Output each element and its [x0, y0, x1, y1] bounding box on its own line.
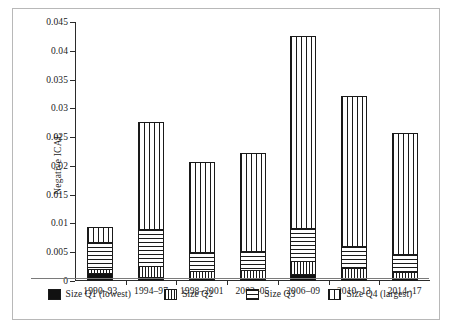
- stacked-bar[interactable]: [341, 96, 367, 281]
- y-axis-tick-label: 0.01: [51, 218, 68, 228]
- bar-segment[interactable]: [88, 243, 112, 270]
- bar-segment[interactable]: [190, 253, 214, 272]
- bar-segment[interactable]: [342, 97, 366, 247]
- legend-item[interactable]: Size Q3: [246, 289, 295, 300]
- figure-panel: Negative ICAE 00.0050.010.0150.020.0250.…: [12, 8, 440, 320]
- chart-legend: Size Q1 (lowest)Size Q2Size Q3Size Q4 (l…: [31, 278, 429, 305]
- bar-group[interactable]: 1998–2001: [189, 22, 215, 281]
- y-axis-line: [75, 22, 76, 281]
- y-axis-tick: [70, 80, 75, 81]
- y-axis-tick-label: 0.035: [46, 75, 68, 85]
- y-axis-tick: [70, 252, 75, 253]
- legend-item[interactable]: Size Q1 (lowest): [48, 289, 131, 300]
- legend-swatch-icon: [328, 289, 341, 300]
- bar-segment[interactable]: [291, 37, 315, 228]
- bar-segment[interactable]: [241, 252, 265, 271]
- y-axis-tick-label: 0.03: [51, 103, 68, 113]
- bar-segment[interactable]: [139, 230, 163, 267]
- bar-segment[interactable]: [241, 154, 265, 252]
- bar-group[interactable]: 2010–13: [341, 22, 367, 281]
- stacked-bar[interactable]: [189, 162, 215, 281]
- y-axis-tick: [70, 108, 75, 109]
- legend-swatch-icon: [164, 289, 177, 300]
- stacked-bar[interactable]: [87, 227, 113, 281]
- bar-segment[interactable]: [190, 163, 214, 253]
- stacked-bar[interactable]: [138, 122, 164, 281]
- y-axis-tick-label: 0.015: [46, 190, 68, 200]
- plot-area: 00.0050.010.0150.020.0250.030.0350.040.0…: [75, 22, 430, 281]
- bar-segment[interactable]: [291, 229, 315, 263]
- stacked-bar[interactable]: [392, 133, 418, 281]
- bar-segment[interactable]: [139, 267, 163, 278]
- y-axis-tick: [70, 137, 75, 138]
- legend-item-label: Size Q3: [264, 289, 295, 299]
- legend-item-label: Size Q4 (largest): [346, 289, 412, 299]
- bar-group[interactable]: 2002–05: [240, 22, 266, 281]
- bar-group[interactable]: 1994–97: [138, 22, 164, 281]
- bar-group[interactable]: 1990–93: [87, 22, 113, 281]
- bar-segment[interactable]: [291, 262, 315, 275]
- bar-segment[interactable]: [393, 255, 417, 273]
- stacked-bar[interactable]: [290, 36, 316, 281]
- bar-segment[interactable]: [342, 247, 366, 269]
- bar-group[interactable]: 2014–17: [392, 22, 418, 281]
- y-axis-tick: [70, 195, 75, 196]
- y-axis-tick-label: 0.045: [46, 17, 68, 27]
- y-axis-tick: [70, 223, 75, 224]
- y-axis-tick-label: 0.025: [46, 132, 68, 142]
- legend-swatch-icon: [48, 289, 61, 300]
- bar-segment[interactable]: [393, 134, 417, 256]
- y-axis-tick: [70, 51, 75, 52]
- y-axis-tick-label: 0.04: [51, 46, 68, 56]
- bar-segment[interactable]: [88, 228, 112, 242]
- y-axis-tick-label: 0.005: [46, 247, 68, 257]
- y-axis-tick-label: 0.02: [51, 161, 68, 171]
- legend-item[interactable]: Size Q2: [164, 289, 213, 300]
- bar-group[interactable]: 2006–09: [290, 22, 316, 281]
- legend-item-label: Size Q2: [182, 289, 213, 299]
- legend-swatch-icon: [246, 289, 259, 300]
- legend-item-label: Size Q1 (lowest): [66, 289, 131, 299]
- bar-segment[interactable]: [139, 123, 163, 230]
- y-axis-tick: [70, 22, 75, 23]
- stacked-bar[interactable]: [240, 153, 266, 281]
- legend-item[interactable]: Size Q4 (largest): [328, 289, 412, 300]
- y-axis-tick: [70, 166, 75, 167]
